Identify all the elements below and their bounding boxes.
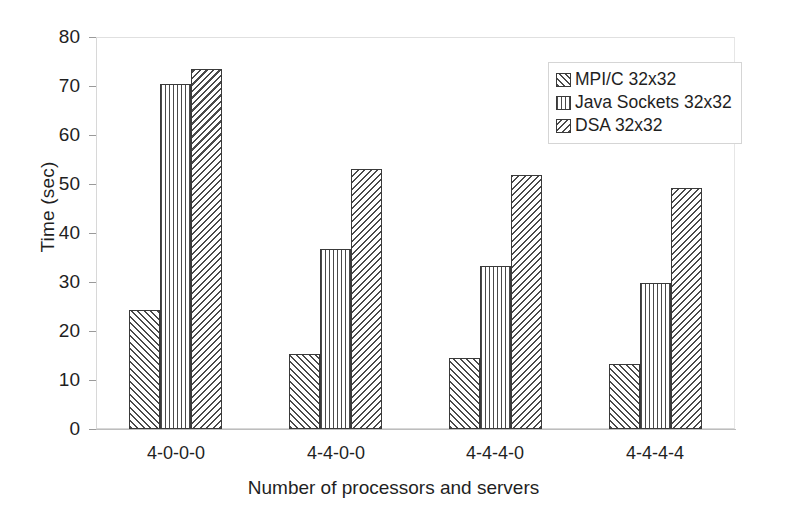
- y-tick-label: 20: [38, 321, 80, 340]
- y-tick-label: 30: [38, 272, 80, 291]
- y-tick-label: 50: [38, 174, 80, 193]
- bar: [191, 69, 222, 429]
- legend-item-mpi-c: MPI/C 32x32: [556, 68, 732, 91]
- legend-swatch-icon-dsa: [556, 119, 571, 133]
- legend-item-dsa: DSA 32x32: [556, 114, 732, 137]
- x-tick-label: 4-4-4-0: [410, 443, 580, 464]
- bar: [351, 169, 382, 429]
- bar: [289, 354, 320, 429]
- legend-swatch-icon-java-sockets: [556, 96, 571, 110]
- x-tick-label: 4-4-0-0: [251, 443, 421, 464]
- y-tick-label: 0: [38, 419, 80, 438]
- bar: [480, 266, 511, 429]
- legend-label-java-sockets: Java Sockets 32x32: [575, 94, 732, 112]
- bar: [609, 364, 640, 429]
- y-tick-label: 70: [38, 76, 80, 95]
- bar: [160, 84, 191, 429]
- x-tick-label: 4-4-4-4: [570, 443, 740, 464]
- y-tick-label: 10: [38, 370, 80, 389]
- x-axis-line: [96, 429, 736, 430]
- legend-swatch-icon-mpi-c: [556, 73, 571, 87]
- bar: [671, 188, 702, 429]
- x-axis-title: Number of processors and servers: [0, 477, 787, 499]
- bar: [129, 310, 160, 429]
- legend-label-dsa: DSA 32x32: [575, 117, 663, 135]
- x-tick-label: 4-0-0-0: [91, 443, 261, 464]
- y-tick-label: 60: [38, 125, 80, 144]
- legend-label-mpi-c: MPI/C 32x32: [575, 71, 676, 89]
- y-tick-label: 40: [38, 223, 80, 242]
- bar: [511, 175, 542, 429]
- y-tick-label: 80: [38, 27, 80, 46]
- bar: [449, 358, 480, 429]
- legend: MPI/C 32x32 Java Sockets 32x32 DSA 32x32: [548, 62, 742, 144]
- bar-chart: Time (sec) 01020304050607080 4-0-0-04-4-…: [0, 0, 787, 519]
- bar: [320, 249, 351, 429]
- legend-item-java-sockets: Java Sockets 32x32: [556, 91, 732, 114]
- bar: [640, 283, 671, 429]
